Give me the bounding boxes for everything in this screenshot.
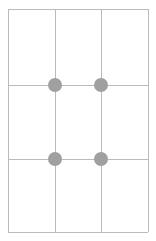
intersection-dot-r2-c2[interactable] [94, 152, 108, 166]
grid-line-v-1 [55, 9, 56, 232]
grid-line-v-0 [8, 9, 9, 232]
grid-line-h-1 [8, 85, 148, 86]
grid-line-h-3 [8, 232, 148, 233]
intersection-dot-r1-c1[interactable] [48, 78, 62, 92]
grid-line-v-3 [148, 9, 149, 232]
grid-canvas [0, 0, 156, 241]
intersection-dot-r2-c1[interactable] [48, 152, 62, 166]
grid-line-h-0 [8, 9, 148, 10]
intersection-dot-r1-c2[interactable] [94, 78, 108, 92]
grid-line-v-2 [101, 9, 102, 232]
grid-line-h-2 [8, 159, 148, 160]
